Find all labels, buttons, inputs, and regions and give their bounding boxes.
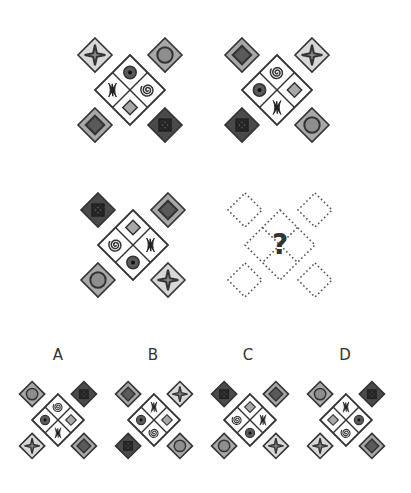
corner-tile-xbox [81, 193, 115, 227]
matrix-panel-1 [78, 38, 182, 142]
corner-tile-star [20, 433, 45, 458]
corner-tile-nested-diamond [263, 382, 288, 407]
corner-tile-xbox [116, 433, 141, 458]
corner-tile-xbox [225, 108, 259, 142]
center-tile [95, 55, 165, 125]
corner-tile-star [295, 38, 329, 72]
center-tile [128, 394, 180, 446]
corner-tile-circle [308, 382, 333, 407]
option-d[interactable] [308, 382, 385, 459]
corner-tile-xbox [212, 382, 237, 407]
corner-tile-nested-diamond [225, 38, 259, 72]
corner-tile-nested-diamond [78, 108, 112, 142]
puzzle-stage: ? ABCD [0, 0, 411, 493]
corner-tile-circle [148, 38, 182, 72]
corner-tile-circle [81, 263, 115, 297]
corner-tile-star [78, 38, 112, 72]
corner-tile-circle [295, 108, 329, 142]
center-tile [242, 55, 312, 125]
matrix-panel-4: ? [228, 193, 332, 297]
option-b[interactable] [116, 382, 193, 459]
option-a[interactable] [20, 382, 97, 459]
option-label-a[interactable]: A [43, 346, 73, 364]
corner-tile-circle [20, 382, 45, 407]
corner-tile-star [167, 382, 192, 407]
matrix-panel-3 [81, 193, 185, 297]
puzzle-canvas: ? [0, 0, 411, 493]
corner-tile-nested-diamond [359, 433, 384, 458]
corner-tile-circle [167, 433, 192, 458]
center-tile [224, 394, 276, 446]
corner-tile-xbox [359, 382, 384, 407]
corner-tile-circle [212, 433, 237, 458]
center-tile [32, 394, 84, 446]
question-mark: ? [272, 228, 288, 261]
option-label-b[interactable]: B [138, 346, 168, 364]
matrix-panel-2 [225, 38, 329, 142]
corner-tile-xbox [148, 108, 182, 142]
corner-tile-xbox [71, 382, 96, 407]
option-c[interactable] [212, 382, 289, 459]
corner-tile-star [263, 433, 288, 458]
center-tile [320, 394, 372, 446]
corner-tile-star [308, 433, 333, 458]
center-tile [98, 210, 168, 280]
corner-tile-nested-diamond [116, 382, 141, 407]
corner-tile-star [151, 263, 185, 297]
option-label-d[interactable]: D [330, 346, 360, 364]
corner-tile-nested-diamond [71, 433, 96, 458]
option-label-c[interactable]: C [233, 346, 263, 364]
corner-tile-nested-diamond [151, 193, 185, 227]
